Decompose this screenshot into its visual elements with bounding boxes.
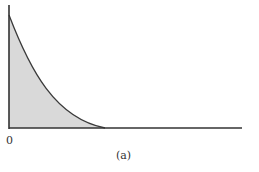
origin-label: 0 xyxy=(6,135,13,146)
figure-caption: (a) xyxy=(116,150,131,161)
diagram-canvas xyxy=(0,0,259,172)
shaded-area xyxy=(9,15,105,128)
